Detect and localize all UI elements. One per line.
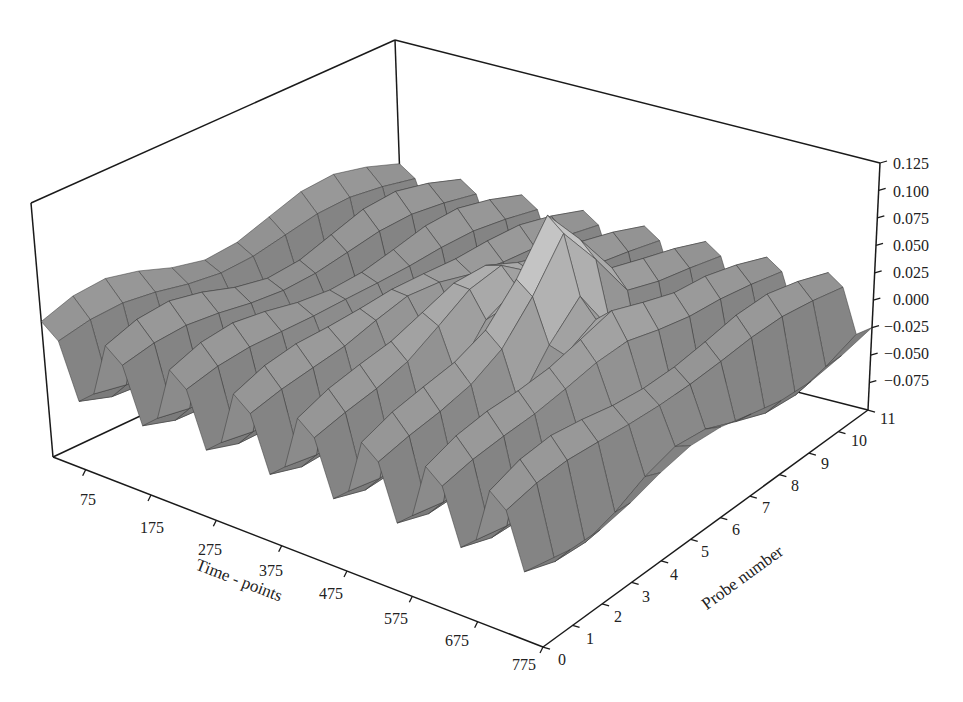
y-tick-label: 10	[851, 432, 867, 450]
z-tick-mark	[871, 353, 878, 355]
z-tick-mark	[876, 243, 883, 245]
z-tick-label: 0.125	[893, 155, 929, 173]
x-tick-label: 75	[80, 491, 96, 509]
y-tick-label: 7	[762, 499, 770, 517]
y-tick-label: 5	[701, 543, 709, 561]
y-tick-mark	[691, 539, 698, 541]
y-tick-label: 4	[670, 566, 678, 584]
y-tick-mark	[720, 518, 727, 520]
x-tick-mark	[279, 546, 282, 552]
z-tick-label: −0.025	[884, 318, 929, 336]
z-tick-label: 0.000	[893, 291, 929, 309]
y-tick-label: 6	[732, 521, 740, 539]
y-tick-label: 8	[791, 477, 799, 495]
box-edge-top-right	[395, 40, 880, 163]
y-tick-mark	[661, 561, 668, 563]
z-tick-label: 0.050	[893, 237, 929, 255]
y-tick-mark	[750, 496, 757, 498]
y-tick-mark	[632, 582, 639, 584]
y-tick-mark	[868, 410, 875, 412]
surface-mesh	[41, 164, 872, 572]
y-tick-mark	[573, 625, 580, 627]
x-tick-mark	[409, 596, 412, 602]
z-tick-mark	[879, 188, 886, 190]
z-tick-mark	[880, 161, 887, 163]
x-tick-mark	[213, 520, 216, 526]
x-tick-label: 575	[384, 610, 408, 628]
y-tick-mark	[543, 647, 550, 649]
y-tick-label: 1	[586, 630, 594, 648]
z-tick-mark	[869, 381, 876, 383]
z-tick-label: −0.075	[884, 372, 929, 390]
y-tick-label: 3	[642, 588, 650, 606]
z-tick-label: −0.050	[884, 345, 929, 363]
y-tick-label: 2	[614, 608, 622, 626]
x-tick-mark	[148, 495, 151, 501]
x-tick-mark	[475, 622, 478, 628]
x-tick-label: 775	[512, 656, 536, 674]
y-tick-mark	[602, 604, 609, 606]
z-tick-mark	[873, 298, 880, 300]
x-tick-label: 475	[319, 585, 343, 603]
surface-plot-canvas	[0, 0, 963, 702]
x-tick-mark	[344, 571, 347, 577]
z-tick-label: 0.075	[893, 210, 929, 228]
x-tick-mark	[540, 647, 543, 653]
z-tick-label: 0.025	[893, 264, 929, 282]
y-tick-mark	[779, 475, 786, 477]
x-tick-label: 375	[259, 562, 283, 580]
z-tick-mark	[877, 216, 884, 218]
z-tick-mark	[872, 326, 879, 328]
y-tick-label: 0	[558, 651, 566, 669]
z-axis-line	[868, 163, 880, 410]
x-tick-label: 675	[445, 632, 469, 650]
z-tick-label: 0.100	[893, 183, 929, 201]
y-tick-label: 11	[880, 410, 895, 428]
x-tick-mark	[83, 470, 86, 476]
z-tick-mark	[875, 271, 882, 273]
y-tick-label: 9	[821, 455, 829, 473]
y-tick-mark	[838, 432, 845, 434]
x-tick-label: 175	[140, 519, 164, 537]
y-tick-mark	[809, 453, 816, 455]
